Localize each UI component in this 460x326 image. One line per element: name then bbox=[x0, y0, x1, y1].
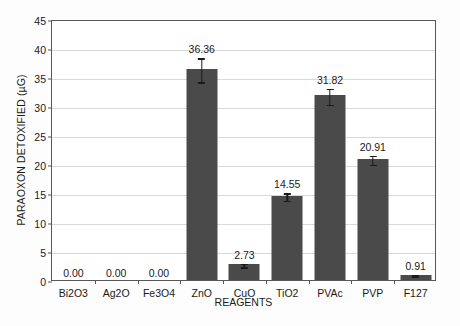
bar[interactable] bbox=[186, 69, 217, 280]
x-axis-title: REAGENTS bbox=[51, 296, 436, 308]
y-axis-title: PARAOXON DETOXIFIED (µG) bbox=[12, 0, 28, 300]
bar-group[interactable]: 14.55 bbox=[266, 21, 309, 280]
bar-value-label: 0.00 bbox=[63, 267, 83, 279]
y-tick-label: 45 bbox=[34, 15, 46, 27]
bar-value-label: 2.73 bbox=[234, 249, 254, 261]
x-tick-mark bbox=[351, 280, 352, 284]
error-bar bbox=[287, 193, 288, 202]
bar-value-label: 0.00 bbox=[106, 267, 126, 279]
y-tick-label: 30 bbox=[34, 102, 46, 114]
bar-group[interactable]: 0.00 bbox=[138, 21, 181, 280]
bar-group[interactable]: 31.82 bbox=[309, 21, 352, 280]
bar-group[interactable]: 0.00 bbox=[95, 21, 138, 280]
bar-value-label: 0.91 bbox=[405, 260, 425, 272]
x-tick-mark bbox=[223, 280, 224, 284]
y-tick-label: 5 bbox=[40, 247, 46, 259]
y-tick-label: 20 bbox=[34, 160, 46, 172]
bar-group[interactable]: 36.36 bbox=[180, 21, 223, 280]
y-tick-label: 15 bbox=[34, 189, 46, 201]
x-tick-mark bbox=[138, 280, 139, 284]
error-bar bbox=[372, 156, 373, 166]
bar-group[interactable]: 20.91 bbox=[351, 21, 394, 280]
y-tick-label: 0 bbox=[40, 276, 46, 288]
bar-group[interactable]: 2.73 bbox=[223, 21, 266, 280]
chart-figure: PARAOXON DETOXIFIED (µG) 051015202530354… bbox=[0, 0, 460, 326]
bar[interactable] bbox=[272, 196, 303, 280]
error-bar bbox=[201, 58, 202, 84]
bar-value-label: 36.36 bbox=[189, 43, 215, 55]
bar-value-label: 14.55 bbox=[274, 178, 300, 190]
bar-value-label: 0.00 bbox=[149, 267, 169, 279]
plot-inner: 0510152025303540450.00Bi2O30.00Ag2O0.00F… bbox=[52, 21, 435, 280]
y-tick-label: 35 bbox=[34, 73, 46, 85]
bar-value-label: 20.91 bbox=[360, 141, 386, 153]
bar-group[interactable]: 0.00 bbox=[52, 21, 95, 280]
y-axis-title-text: PARAOXON DETOXIFIED (µG) bbox=[14, 75, 26, 226]
y-tick-label: 40 bbox=[34, 44, 46, 56]
bar[interactable] bbox=[357, 159, 388, 280]
x-tick-mark bbox=[394, 280, 395, 284]
x-tick-mark bbox=[266, 280, 267, 284]
error-bar bbox=[329, 89, 330, 106]
x-tick-mark bbox=[180, 280, 181, 284]
plot-area: 0510152025303540450.00Bi2O30.00Ag2O0.00F… bbox=[51, 20, 436, 281]
bar[interactable] bbox=[315, 95, 346, 280]
y-tick-label: 25 bbox=[34, 131, 46, 143]
y-tick-label: 10 bbox=[34, 218, 46, 230]
x-tick-mark bbox=[309, 280, 310, 284]
bar-group[interactable]: 0.91 bbox=[394, 21, 437, 280]
x-tick-mark bbox=[95, 280, 96, 284]
error-bar bbox=[244, 264, 245, 269]
error-bar bbox=[415, 275, 416, 278]
bar-value-label: 31.82 bbox=[317, 74, 343, 86]
y-tick-mark bbox=[48, 282, 52, 283]
